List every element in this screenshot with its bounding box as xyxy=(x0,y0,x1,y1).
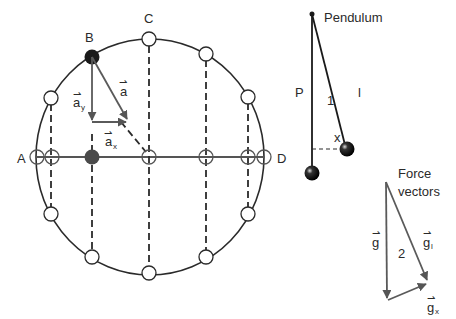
label-p: P xyxy=(295,85,304,100)
vector-ax-subscript: x xyxy=(113,142,117,151)
label-d: D xyxy=(277,151,286,166)
vector-g-label: g xyxy=(372,235,379,250)
label-c: C xyxy=(144,11,153,26)
pendulum-bob-displaced xyxy=(340,142,355,157)
pendulum-bob-rest xyxy=(305,166,320,181)
force-title-line2: vectors xyxy=(398,184,440,199)
label-x: x xyxy=(334,130,341,145)
projection-b-marker xyxy=(85,150,100,165)
label-triangle-2: 2 xyxy=(398,246,405,261)
vector-ay-label: a xyxy=(73,95,81,110)
circular-motion-diagram: A B C D ⇀ a ⇀ a y ⇀ a x xyxy=(17,11,286,280)
pendulum-diagram: Pendulum P l 1 x xyxy=(295,10,383,181)
label-length: l xyxy=(358,85,361,100)
vector-gl-subscript: l xyxy=(431,242,433,251)
vector-gx-label: g xyxy=(427,300,434,315)
force-title-line1: Force xyxy=(398,166,431,181)
label-a: A xyxy=(17,151,26,166)
vector-ax-label: a xyxy=(105,134,113,149)
vector-a-label: a xyxy=(120,84,128,99)
pendulum-title: Pendulum xyxy=(324,10,383,25)
label-b: B xyxy=(85,30,94,45)
label-triangle-1: 1 xyxy=(327,93,334,108)
vector-gx-subscript: x xyxy=(435,307,439,316)
diagram-canvas: A B C D ⇀ a ⇀ a y ⇀ a x Pendulum P l 1 x… xyxy=(0,0,456,319)
swung-string xyxy=(312,14,345,145)
vector-gl-label: g xyxy=(423,235,430,250)
force-vectors-diagram: Force vectors ⇀ g 2 ⇀ g l ⇀ g x xyxy=(372,166,440,316)
vector-gx xyxy=(388,284,426,300)
vector-g xyxy=(386,182,387,298)
vector-ay-subscript: y xyxy=(81,103,85,112)
